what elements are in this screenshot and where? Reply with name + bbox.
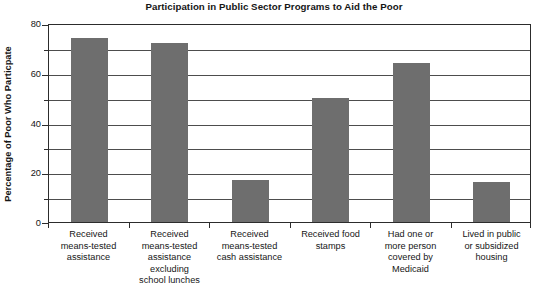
x-axis-tick <box>370 223 371 228</box>
bar-chart: Participation in Public Sector Programs … <box>0 0 548 304</box>
x-axis-tick <box>451 223 452 228</box>
x-axis-category-labels: Receivedmeans-testedassistanceReceivedme… <box>48 229 531 301</box>
x-axis-category-label: Had one ormore personcovered byMedicaid <box>370 229 451 275</box>
chart-title: Participation in Public Sector Programs … <box>0 1 548 12</box>
x-axis-ticks <box>48 223 531 228</box>
x-axis-category-label-line: Had one or <box>370 229 451 241</box>
y-axis-title: Percentage of Poor Who Particpate <box>0 24 16 224</box>
x-axis-category-label-line: school lunches <box>129 275 210 287</box>
bar <box>71 38 108 222</box>
x-axis-category-label-line: Received <box>129 229 210 241</box>
y-axis-tick <box>42 125 49 126</box>
bar <box>473 182 510 222</box>
x-axis-tick <box>530 223 531 228</box>
plot-inner <box>49 25 530 222</box>
x-axis-category-label-line: housing <box>451 252 532 264</box>
x-axis-category-label-line: means-tested <box>48 241 129 253</box>
x-axis-tick <box>290 223 291 228</box>
plot-area <box>48 24 531 223</box>
y-axis-tick <box>44 50 49 51</box>
y-axis-tick <box>42 25 49 26</box>
y-axis-tick <box>44 100 49 101</box>
x-axis-category-label: Lived in publicor subsidizedhousing <box>451 229 532 264</box>
bar <box>393 63 430 222</box>
gridline <box>49 199 530 200</box>
x-axis-category-label-line: Received <box>48 229 129 241</box>
y-axis-tick <box>44 149 49 150</box>
y-axis-tick-label: 80 <box>31 19 41 29</box>
gridline <box>49 100 530 101</box>
x-axis-category-label-line: Lived in public <box>451 229 532 241</box>
x-axis-category-label-line: or subsidized <box>451 241 532 253</box>
x-axis-category-label-line: Medicaid <box>370 264 451 276</box>
y-axis-tick-label: 40 <box>31 119 41 129</box>
gridline <box>49 149 530 150</box>
x-axis-category-label: Receivedmeans-testedassistanceexcludings… <box>129 229 210 287</box>
x-axis-category-label: Received foodstamps <box>290 229 371 252</box>
y-axis-tick <box>44 199 49 200</box>
y-axis-tick-labels: 020406080 <box>16 24 41 223</box>
gridline <box>49 50 530 51</box>
y-axis-tick <box>42 75 49 76</box>
x-axis-category-label-line: more person <box>370 241 451 253</box>
x-axis-category-label-line: excluding <box>129 264 210 276</box>
y-axis-tick-label: 60 <box>31 69 41 79</box>
y-axis-title-text: Percentage of Poor Who Particpate <box>3 46 13 202</box>
bar <box>151 43 188 222</box>
y-axis-tick <box>42 174 49 175</box>
bar <box>312 98 349 222</box>
y-axis-tick-label: 0 <box>36 218 41 228</box>
gridline <box>49 125 530 126</box>
x-axis-category-label-line: cash assistance <box>209 252 290 264</box>
bar <box>232 180 269 222</box>
x-axis-category-label-line: Received food <box>290 229 371 241</box>
x-axis-category-label-line: means-tested <box>209 241 290 253</box>
x-axis-tick <box>209 223 210 228</box>
x-axis-category-label-line: Received <box>209 229 290 241</box>
x-axis-category-label: Receivedmeans-testedcash assistance <box>209 229 290 264</box>
x-axis-category-label-line: means-tested <box>129 241 210 253</box>
x-axis-category-label-line: assistance <box>48 252 129 264</box>
x-axis-tick <box>48 223 49 228</box>
x-axis-category-label: Receivedmeans-testedassistance <box>48 229 129 264</box>
y-axis-tick-label: 20 <box>31 168 41 178</box>
x-axis-category-label-line: assistance <box>129 252 210 264</box>
x-axis-category-label-line: stamps <box>290 241 371 253</box>
gridline <box>49 75 530 76</box>
x-axis-category-label-line: covered by <box>370 252 451 264</box>
x-axis-tick <box>129 223 130 228</box>
gridline <box>49 174 530 175</box>
